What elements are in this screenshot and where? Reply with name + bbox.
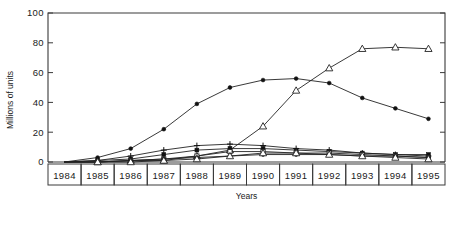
data-point-open-triangle-marker xyxy=(293,87,300,93)
data-point-filled-circle-marker xyxy=(162,127,166,131)
data-point-open-triangle-marker xyxy=(392,44,399,50)
data-point-plus-marker xyxy=(227,141,233,147)
data-point-filled-circle-marker xyxy=(261,78,265,82)
data-point-filled-circle-marker xyxy=(327,81,331,85)
y-tick-label: 20 xyxy=(33,127,44,138)
x-category-label: 1986 xyxy=(119,170,142,181)
data-point-plus-marker xyxy=(161,147,167,153)
plot-frame xyxy=(48,13,445,162)
y-tick-label: 100 xyxy=(27,7,44,18)
data-point-filled-square-marker xyxy=(195,148,199,152)
series-series-filled-circle-peak xyxy=(65,77,431,162)
x-category-label: 1990 xyxy=(252,170,275,181)
x-category-label: 1994 xyxy=(384,170,407,181)
x-category-label: 1989 xyxy=(219,170,242,181)
data-point-filled-circle-marker xyxy=(393,106,397,110)
y-tick-label: 60 xyxy=(33,67,44,78)
series-series-plus-low xyxy=(65,141,432,163)
y-tick-label: 40 xyxy=(33,97,44,108)
x-category-label: 1993 xyxy=(351,170,374,181)
y-tick-label: 0 xyxy=(38,156,44,167)
data-point-filled-circle-marker xyxy=(360,96,364,100)
x-category-label: 1991 xyxy=(285,170,308,181)
chart-figure: 0204060801001984198519861987198819891990… xyxy=(0,0,461,225)
y-axis-title: Millions of units xyxy=(5,71,15,129)
line-chart: 0204060801001984198519861987198819891990… xyxy=(0,0,461,225)
x-category-label: 1992 xyxy=(318,170,341,181)
data-point-filled-circle-marker xyxy=(294,77,298,81)
data-point-filled-circle-marker xyxy=(228,86,232,90)
data-point-open-triangle-marker xyxy=(326,65,333,71)
series-line xyxy=(65,155,429,162)
x-category-label: 1988 xyxy=(186,170,209,181)
data-point-plus-marker xyxy=(194,143,200,149)
data-point-filled-square-marker xyxy=(162,153,166,157)
data-point-filled-circle-marker xyxy=(427,117,431,121)
data-point-filled-circle-marker xyxy=(195,102,199,106)
y-tick-label: 80 xyxy=(33,37,44,48)
x-category-label: 1985 xyxy=(86,170,109,181)
x-category-label: 1987 xyxy=(152,170,175,181)
series-series-open-triangle-rising xyxy=(65,44,433,165)
x-axis-title: Years xyxy=(236,191,257,201)
x-category-label: 1995 xyxy=(417,170,440,181)
series-line xyxy=(65,79,429,162)
data-point-filled-circle-marker xyxy=(129,147,133,151)
x-category-label: 1984 xyxy=(53,170,76,181)
